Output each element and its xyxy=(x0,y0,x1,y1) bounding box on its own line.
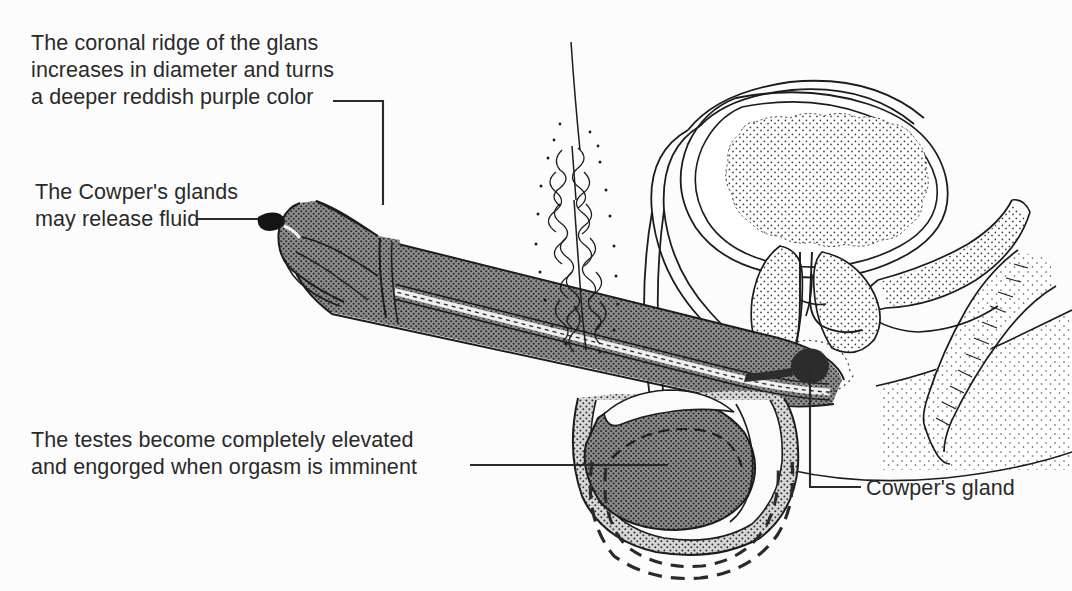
anatomical-diagram: The coronal ridge of the glans increases… xyxy=(0,0,1072,591)
glans-penis xyxy=(278,201,400,324)
label-cowper-glands-release: The Cowper's glands may release fluid xyxy=(35,179,238,233)
label-coronal-ridge: The coronal ridge of the glans increases… xyxy=(31,30,334,111)
label-testes-elevated: The testes become completely elevated an… xyxy=(31,427,417,481)
label-cowper-gland: Cowper's gland xyxy=(866,475,1015,502)
leader-coronal-ridge xyxy=(333,101,383,205)
